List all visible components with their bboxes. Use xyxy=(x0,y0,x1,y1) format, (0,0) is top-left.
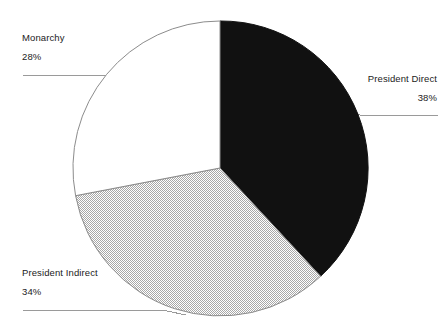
slice-label-president-direct: President Direct 38% xyxy=(368,74,437,103)
slice-label-monarchy-name: Monarchy xyxy=(22,33,65,43)
slice-label-president-indirect: President Indirect 34% xyxy=(22,268,98,297)
slice-label-president-indirect-name: President Indirect xyxy=(22,268,98,278)
pie-chart-figure: Monarchy 28% President Direct 38% Presid… xyxy=(0,0,440,336)
leader-line-president-indirect xyxy=(23,311,187,316)
slice-label-monarchy: Monarchy 28% xyxy=(22,33,65,62)
leader-line-president-direct xyxy=(352,112,438,116)
slice-label-president-indirect-value: 34% xyxy=(22,287,98,297)
slice-label-president-direct-name: President Direct xyxy=(368,74,437,84)
slice-label-president-direct-value: 38% xyxy=(368,93,437,103)
pie-slice-monarchy[interactable] xyxy=(73,21,220,196)
slice-label-monarchy-value: 28% xyxy=(22,52,65,62)
